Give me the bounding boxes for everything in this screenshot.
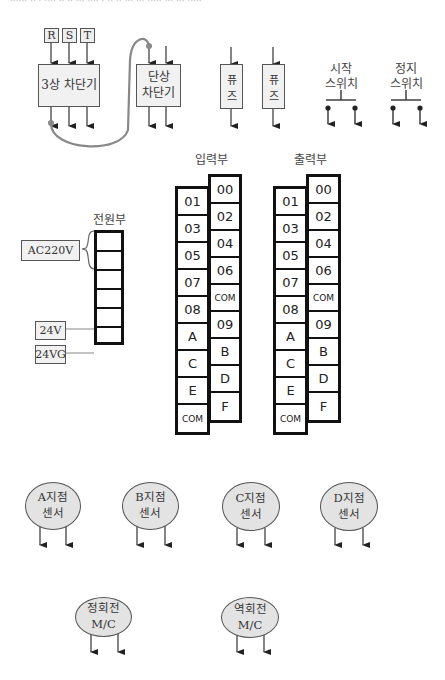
phase-t-terminal: T — [80, 28, 95, 43]
sensor-b[interactable]: B지점센서 — [122, 482, 179, 530]
three-phase-breaker[interactable]: 3상 차단기 — [38, 64, 100, 107]
reverse-contactor[interactable]: 역회전M/C — [221, 597, 279, 638]
output-terminal-01[interactable]: 01 — [276, 189, 305, 216]
sensor-a-line1: A지점 — [38, 490, 68, 504]
phase-s-terminal: S — [62, 28, 77, 43]
sensor-d[interactable]: D지점센서 — [320, 482, 378, 531]
single-phase-breaker[interactable]: 단상 차단기 — [136, 64, 181, 107]
input-terminal-00[interactable]: 00 — [211, 177, 239, 204]
output-terminal-b[interactable]: B — [309, 339, 338, 366]
output-terminal-02[interactable]: 02 — [309, 204, 338, 231]
input-terminal-02[interactable]: 02 — [211, 204, 239, 231]
reverse-contactor-line1: 역회전 — [234, 602, 267, 616]
output-terminal-04[interactable]: 04 — [309, 231, 338, 258]
input-terminal-d[interactable]: D — [211, 366, 239, 393]
input-terminal-f[interactable]: F — [211, 393, 239, 420]
input-terminal-04[interactable]: 04 — [211, 231, 239, 258]
single-phase-label-line2: 차단기 — [142, 86, 175, 100]
single-phase-breaker-label: 단상 차단기 — [142, 70, 175, 101]
sensor-a[interactable]: A지점센서 — [25, 482, 81, 530]
input-terminal-05[interactable]: 05 — [178, 243, 207, 270]
stop-switch-line2: 스위치 — [390, 77, 423, 91]
three-phase-breaker-label: 3상 차단기 — [41, 78, 96, 94]
input-terminal-a[interactable]: A — [178, 324, 207, 351]
output-terminal-left-column: 01 03 05 07 08 A C E COM — [273, 186, 308, 435]
fuse-2-label-line2: 즈 — [269, 87, 279, 103]
fuse-2-label-line1: 퓨 — [269, 71, 279, 87]
output-terminal-f[interactable]: F — [309, 393, 338, 420]
input-terminal-06[interactable]: 06 — [211, 258, 239, 285]
input-terminal-09[interactable]: 09 — [211, 312, 239, 339]
output-terminal-e[interactable]: E — [276, 378, 305, 405]
24v-label-box: 24V — [35, 321, 66, 340]
stop-switch-line1: 정지 — [395, 62, 417, 76]
output-terminal-right-column: 00 02 04 06 COM 09 B D F — [306, 174, 341, 423]
ac220v-label-box: AC220V — [21, 240, 80, 261]
output-terminal-05[interactable]: 05 — [276, 243, 305, 270]
sensor-a-label: A지점센서 — [38, 490, 68, 521]
sensor-b-label: B지점센서 — [135, 490, 165, 521]
power-terminal-cell-5[interactable] — [97, 309, 121, 328]
sensor-b-line1: B지점 — [135, 490, 165, 504]
input-terminal-07[interactable]: 07 — [178, 270, 207, 297]
output-terminal-00[interactable]: 00 — [309, 177, 338, 204]
output-terminal-03[interactable]: 03 — [276, 216, 305, 243]
sensor-d-line2: 센서 — [338, 507, 360, 521]
fuse-1-label-line2: 즈 — [227, 87, 237, 103]
sensor-b-line2: 센서 — [139, 506, 161, 520]
start-switch-label[interactable]: 시작 스위치 — [321, 62, 361, 92]
single-phase-label-line1: 단상 — [148, 70, 170, 84]
forward-contactor[interactable]: 정회전M/C — [75, 597, 132, 637]
input-unit-title: 입력부 — [186, 153, 236, 168]
output-unit-title: 출력부 — [285, 153, 335, 168]
output-terminal-a[interactable]: A — [276, 324, 305, 351]
input-terminal-01[interactable]: 01 — [178, 189, 207, 216]
power-unit-title: 전원부 — [84, 213, 134, 228]
sensor-d-label: D지점센서 — [333, 491, 364, 522]
output-terminal-06[interactable]: 06 — [309, 258, 338, 285]
output-terminal-com-left[interactable]: COM — [276, 405, 305, 432]
output-terminal-d[interactable]: D — [309, 366, 338, 393]
input-terminal-c[interactable]: C — [178, 351, 207, 378]
power-terminal-cell-6[interactable] — [97, 328, 121, 347]
output-terminal-com-right[interactable]: COM — [309, 285, 338, 312]
output-terminal-08[interactable]: 08 — [276, 297, 305, 324]
reverse-contactor-line2: M/C — [238, 618, 262, 632]
input-terminal-03[interactable]: 03 — [178, 216, 207, 243]
sensor-c[interactable]: C지점센서 — [222, 482, 280, 531]
sensor-c-line2: 센서 — [240, 507, 262, 521]
start-switch-line1: 시작 — [330, 62, 352, 76]
sensor-d-line1: D지점 — [333, 491, 364, 505]
fuse-2[interactable]: 퓨 즈 — [262, 64, 285, 109]
input-terminal-b[interactable]: B — [211, 339, 239, 366]
input-terminal-left-column: 01 03 05 07 08 A C E COM — [175, 186, 210, 435]
output-terminal-09[interactable]: 09 — [309, 312, 338, 339]
fuse-1-label-line1: 퓨 — [227, 71, 237, 87]
forward-contactor-line1: 정회전 — [87, 601, 120, 615]
power-terminal-cell-1[interactable] — [97, 233, 121, 252]
stop-switch-label[interactable]: 정지 스위치 — [386, 62, 426, 92]
output-terminal-07[interactable]: 07 — [276, 270, 305, 297]
input-terminal-com-left[interactable]: COM — [178, 405, 207, 432]
input-terminal-e[interactable]: E — [178, 378, 207, 405]
sensor-c-label: C지점센서 — [236, 491, 267, 522]
output-terminal-c[interactable]: C — [276, 351, 305, 378]
input-terminal-com-right[interactable]: COM — [211, 285, 239, 312]
sensor-c-line1: C지점 — [236, 491, 267, 505]
power-terminal-cell-3[interactable] — [97, 271, 121, 290]
fuse-1[interactable]: 퓨 즈 — [220, 64, 243, 109]
start-switch-line2: 스위치 — [325, 77, 358, 91]
forward-contactor-label: 정회전M/C — [87, 601, 120, 632]
power-terminal-block — [94, 230, 124, 345]
input-terminal-right-column: 00 02 04 06 COM 09 B D F — [208, 174, 242, 423]
power-terminal-cell-2[interactable] — [97, 252, 121, 271]
input-terminal-08[interactable]: 08 — [178, 297, 207, 324]
phase-r-terminal: R — [44, 28, 59, 43]
sensor-a-line2: 센서 — [42, 506, 64, 520]
24vg-label-box: 24VG — [35, 345, 66, 364]
reverse-contactor-label: 역회전M/C — [234, 602, 267, 633]
forward-contactor-line2: M/C — [91, 617, 115, 631]
power-terminal-cell-4[interactable] — [97, 290, 121, 309]
